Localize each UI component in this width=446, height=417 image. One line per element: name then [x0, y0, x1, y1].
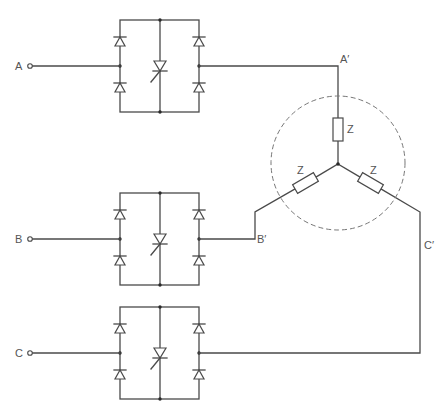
terminal-b [28, 237, 33, 242]
junction-dot [158, 18, 161, 21]
diode-right-lower [193, 83, 205, 92]
diode-left-upper [114, 37, 126, 46]
junction-dot [158, 397, 161, 400]
junction-dot [158, 110, 161, 113]
diode-triangle [194, 370, 204, 379]
wire-c-prime [199, 189, 420, 353]
thyristor-triangle [154, 61, 166, 71]
impedance-c-label: Z [370, 164, 377, 176]
diode-triangle [115, 324, 125, 333]
input-label-c: C [15, 347, 23, 359]
impedance-a-label: Z [347, 123, 354, 135]
star-leg-b [316, 164, 338, 177]
diode-triangle [115, 83, 125, 92]
junction-dot [158, 305, 161, 308]
input-terminal-b: B [15, 233, 120, 245]
input-label-a: A [15, 60, 23, 72]
thyristor-gate [151, 244, 160, 255]
wire-b-prime [199, 189, 295, 239]
star-leg-c [338, 164, 360, 177]
diode-left-lower [114, 256, 126, 265]
diode-triangle [194, 83, 204, 92]
bridges-group [114, 18, 205, 400]
diode-triangle [115, 37, 125, 46]
diode-left-lower [114, 370, 126, 379]
impedance-a [333, 118, 343, 141]
thyristor [151, 348, 167, 369]
bridge-c [114, 305, 205, 400]
input-terminal-a: A [15, 60, 120, 72]
input-terminal-c: C [15, 347, 120, 359]
output-label-b: B′ [257, 233, 266, 245]
diode-triangle [115, 256, 125, 265]
junction-dot [158, 191, 161, 194]
circuit-diagram: Z Z Z A′ B′ C′ A B C [0, 0, 446, 417]
diode-right-upper [193, 210, 205, 219]
thyristor-triangle [154, 234, 166, 244]
diode-left-upper [114, 210, 126, 219]
terminal-a [28, 64, 33, 69]
thyristor-triangle [154, 348, 166, 358]
diode-triangle [115, 370, 125, 379]
diode-right-lower [193, 256, 205, 265]
thyristor-gate [151, 71, 160, 82]
diode-left-upper [114, 324, 126, 333]
thyristor [151, 61, 167, 82]
bridge-a [114, 18, 205, 113]
wire-a-prime [199, 66, 338, 118]
thyristor-gate [151, 358, 160, 369]
diode-triangle [115, 210, 125, 219]
junction-dot [158, 283, 161, 286]
diode-triangle [194, 37, 204, 46]
thyristor [151, 234, 167, 255]
output-label-c: C′ [424, 239, 434, 251]
diode-right-upper [193, 37, 205, 46]
diode-triangle [194, 256, 204, 265]
bridge-b [114, 191, 205, 286]
diode-triangle [194, 324, 204, 333]
diode-left-lower [114, 83, 126, 92]
terminal-c [28, 351, 33, 356]
diode-triangle [194, 210, 204, 219]
diode-right-lower [193, 370, 205, 379]
input-label-b: B [15, 233, 22, 245]
star-point [336, 162, 340, 166]
impedance-b-label: Z [297, 164, 304, 176]
diode-right-upper [193, 324, 205, 333]
output-label-a: A′ [340, 53, 349, 65]
